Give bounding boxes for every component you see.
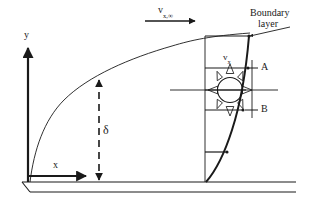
boundary-layer-label-line2: layer [250, 19, 289, 30]
point-a-label: A [261, 62, 268, 73]
boundary-layer-diagram: y x vx,∞ Boundary layer δ vx A B [0, 0, 312, 214]
point-markers [245, 60, 258, 118]
free-stream-velocity-infinity: ∞ [168, 12, 173, 20]
boundary-layer-label-line1: Boundary [250, 8, 289, 19]
momentum-arrow-s [226, 107, 234, 117]
y-axis-label: y [24, 30, 29, 41]
momentum-arrow-sw [217, 99, 223, 109]
flat-plate [22, 182, 296, 192]
point-b-label: B [261, 104, 268, 115]
momentum-arrow-n [226, 64, 234, 74]
momentum-arrow-ne [237, 71, 243, 81]
plate-left-edge [22, 182, 30, 192]
local-velocity-base: v [223, 52, 228, 62]
momentum-arrow-nw [217, 71, 223, 81]
fluid-element-circle [218, 78, 243, 103]
local-velocity-subscript: x [228, 58, 231, 65]
boundary-layer-label: Boundary layer [250, 8, 289, 29]
delta-label: δ [103, 124, 109, 137]
free-stream-velocity-label: vx,∞ [158, 5, 173, 18]
local-velocity-label: vx [223, 53, 231, 65]
x-axis-label: x [53, 160, 58, 171]
